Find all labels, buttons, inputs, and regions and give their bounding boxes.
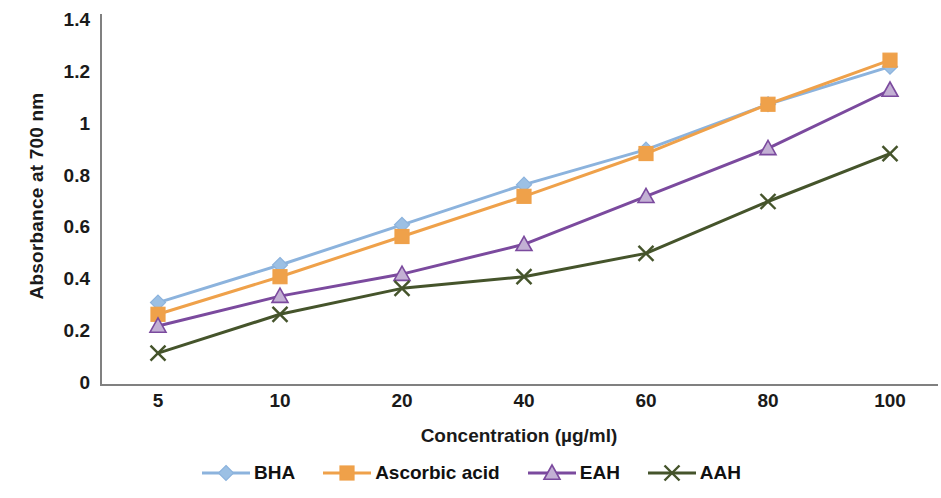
x-tick-label: 10 [240, 390, 320, 412]
data-point-triangle [760, 140, 776, 154]
data-point-square [395, 230, 409, 244]
x-axis-title: Concentration (µg/ml) [100, 425, 938, 447]
y-tick-label: 0.4 [30, 268, 90, 290]
x-tick-label: 100 [850, 390, 930, 412]
plot-area [100, 20, 938, 383]
chart-container: Absorbance at 700 nm 00.20.40.60.811.21.… [0, 0, 941, 498]
y-tick-label: 0.6 [30, 216, 90, 238]
data-point-square [639, 147, 653, 161]
legend-item-eah[interactable]: EAH [526, 462, 620, 484]
y-axis-tick-labels: 00.20.40.60.811.21.4 [28, 0, 90, 498]
data-point-triangle [882, 82, 898, 96]
x-axis-tick-labels: 51020406080100 [100, 390, 938, 420]
x-tick-label: 40 [484, 390, 564, 412]
legend-item-ascorbic-acid[interactable]: Ascorbic acid [321, 462, 500, 484]
legend-marker-square-icon [321, 462, 373, 484]
legend-label: BHA [254, 462, 295, 484]
legend-marker-diamond-icon [200, 462, 252, 484]
data-point-square [761, 97, 775, 111]
x-tick-label: 5 [118, 390, 198, 412]
series-layer [100, 20, 938, 383]
y-tick-label: 1 [30, 113, 90, 135]
chart-legend: BHAAscorbic acidEAHAAH [0, 462, 941, 484]
data-point-square [273, 270, 287, 284]
legend-label: EAH [580, 462, 620, 484]
x-tick-label: 20 [362, 390, 442, 412]
y-tick-label: 0.8 [30, 165, 90, 187]
legend-marker-triangle-icon [526, 462, 578, 484]
series-eah [150, 82, 898, 332]
y-tick-label: 0 [30, 372, 90, 394]
y-tick-label: 1.4 [30, 9, 90, 31]
data-point-square [517, 189, 531, 203]
x-tick-label: 80 [728, 390, 808, 412]
legend-label: AAH [700, 462, 741, 484]
data-point-cross [761, 194, 776, 209]
legend-item-bha[interactable]: BHA [200, 462, 295, 484]
y-tick-label: 0.2 [30, 320, 90, 342]
x-axis-line [100, 384, 938, 386]
data-point-square [883, 53, 897, 67]
legend-item-aah[interactable]: AAH [646, 462, 741, 484]
data-point-cross [151, 346, 166, 361]
data-point-cross [883, 146, 898, 161]
y-tick-label: 1.2 [30, 61, 90, 83]
x-tick-label: 60 [606, 390, 686, 412]
legend-marker-cross-icon [646, 462, 698, 484]
data-point-square [340, 466, 354, 480]
legend-label: Ascorbic acid [375, 462, 500, 484]
data-point-diamond [218, 466, 233, 481]
